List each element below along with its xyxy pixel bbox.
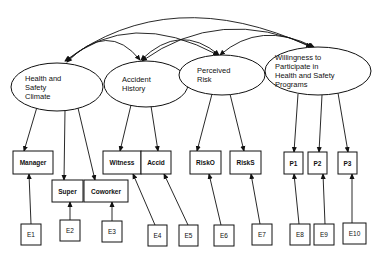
error-label: E6 bbox=[220, 232, 228, 239]
indicator-label: Accid bbox=[147, 159, 165, 166]
indicator-p3: P3 bbox=[338, 152, 357, 174]
indicator-manager: Manager bbox=[13, 151, 53, 174]
error-e2: E2 bbox=[60, 220, 80, 241]
error-label: E10 bbox=[349, 230, 361, 237]
latent-variables: Health andSafetyClimateAccidentHistoryPe… bbox=[11, 47, 371, 111]
latent-label-line: Safety bbox=[25, 83, 47, 92]
error-path-e8-p1 bbox=[294, 174, 299, 224]
indicator-witness: Witness bbox=[103, 151, 141, 174]
indicator-label: RiskS bbox=[236, 159, 255, 166]
loading-hsc-coworker bbox=[78, 108, 95, 180]
latent-label-line: Risk bbox=[197, 75, 212, 84]
indicator-accid: Accid bbox=[141, 151, 171, 174]
error-e10: E10 bbox=[343, 223, 366, 244]
loading-hsc-super bbox=[64, 110, 65, 180]
error-label: E4 bbox=[154, 232, 162, 239]
error-path-e1-manager bbox=[29, 174, 31, 224]
indicator-label: Witness bbox=[110, 159, 135, 166]
latent-label-line: Health and Safety bbox=[275, 71, 335, 80]
indicator-risks: RiskS bbox=[230, 151, 261, 174]
error-e5: E5 bbox=[179, 225, 198, 246]
latent-pr: PerceivedRisk bbox=[179, 55, 265, 95]
indicator-label: Manager bbox=[20, 159, 47, 167]
latent-label-line: Climate bbox=[25, 92, 50, 101]
latent-ellipse bbox=[179, 55, 265, 95]
error-e4: E4 bbox=[148, 225, 167, 246]
latent-label-line: Health and bbox=[25, 74, 61, 83]
latent-label-line: Participate in bbox=[275, 62, 318, 71]
indicator-super: Super bbox=[52, 180, 83, 202]
error-e8: E8 bbox=[290, 224, 310, 245]
indicator-label: RiskO bbox=[196, 159, 215, 166]
error-e3: E3 bbox=[102, 221, 122, 242]
loading-wp-p3 bbox=[338, 93, 348, 152]
latent-label-line: Programs bbox=[275, 80, 308, 89]
latent-hsc: Health andSafetyClimate bbox=[11, 63, 103, 111]
error-path-e4-witness bbox=[133, 174, 155, 225]
error-path-e7-risks bbox=[251, 174, 260, 224]
loading-pr-risks bbox=[230, 94, 244, 151]
latent-wp: Willingness toParticipate inHealth and S… bbox=[265, 47, 371, 95]
error-path-e6-risko bbox=[209, 174, 221, 225]
error-terms: E1E2E3E4E5E6E7E8E9E10 bbox=[21, 220, 366, 246]
covariance-hsc-pr bbox=[66, 33, 218, 61]
indicator-coworker: Coworker bbox=[84, 180, 128, 202]
error-e1: E1 bbox=[21, 224, 41, 245]
latent-label-line: Accident bbox=[122, 75, 152, 84]
loading-hsc-manager bbox=[24, 107, 37, 151]
error-label: E5 bbox=[185, 232, 193, 239]
indicator-risko: RiskO bbox=[190, 151, 221, 174]
latent-label-line: Willingness to bbox=[275, 53, 321, 62]
error-label: E1 bbox=[27, 231, 35, 238]
indicator-p2: P2 bbox=[308, 152, 327, 174]
error-label: E3 bbox=[108, 228, 116, 235]
indicator-label: P3 bbox=[344, 160, 352, 167]
latent-ah: AccidentHistory bbox=[104, 61, 188, 107]
loading-pr-risko bbox=[197, 94, 212, 151]
indicator-label: P1 bbox=[290, 160, 298, 167]
error-e6: E6 bbox=[214, 225, 234, 246]
indicator-label: P2 bbox=[314, 160, 322, 167]
error-label: E9 bbox=[320, 231, 328, 238]
latent-ellipse bbox=[104, 61, 188, 107]
loading-wp-p2 bbox=[319, 95, 322, 152]
error-path-e9-p2 bbox=[323, 174, 325, 224]
error-e9: E9 bbox=[314, 224, 334, 245]
indicator-label: Coworker bbox=[91, 188, 121, 195]
error-e7: E7 bbox=[252, 224, 272, 245]
indicator-p1: P1 bbox=[284, 152, 303, 174]
loading-ah-accid bbox=[151, 106, 158, 151]
indicator-label: Super bbox=[58, 188, 77, 196]
error-label: E8 bbox=[296, 231, 304, 238]
latent-label-line: History bbox=[122, 84, 146, 93]
error-label: E2 bbox=[66, 227, 74, 234]
loading-wp-p1 bbox=[294, 94, 298, 152]
error-path-e5-accid bbox=[164, 174, 188, 225]
loading-ah-witness bbox=[120, 105, 131, 151]
covariance-hsc-ah bbox=[67, 40, 140, 62]
sem-path-diagram: Health andSafetyClimateAccidentHistoryPe… bbox=[0, 0, 377, 259]
error-label: E7 bbox=[258, 231, 266, 238]
latent-label-line: Perceived bbox=[197, 66, 230, 75]
